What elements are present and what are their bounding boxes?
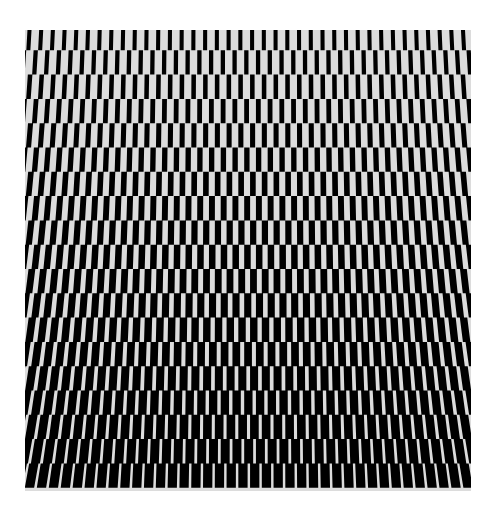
striped-bars-graphic [25,30,471,491]
op-art-pattern [25,30,471,491]
